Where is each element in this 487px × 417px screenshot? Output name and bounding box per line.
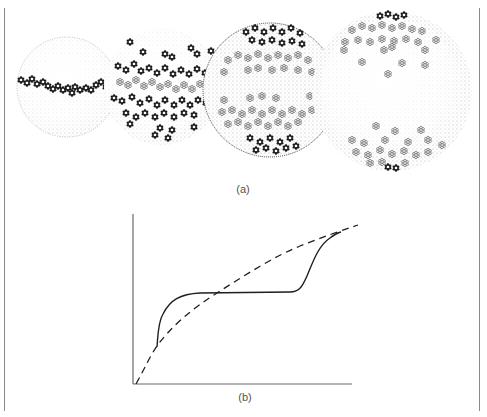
sphere-4 [312, 10, 472, 171]
sphere-1 [17, 37, 117, 137]
figure-canvas [0, 0, 487, 417]
panel-b-plot [133, 214, 358, 384]
sphere-2 [104, 29, 220, 145]
panel-a-spheres [17, 10, 472, 171]
panel-b-label: (b) [238, 391, 251, 403]
panel-a-label: (a) [236, 183, 249, 195]
solid-curve [157, 232, 341, 347]
